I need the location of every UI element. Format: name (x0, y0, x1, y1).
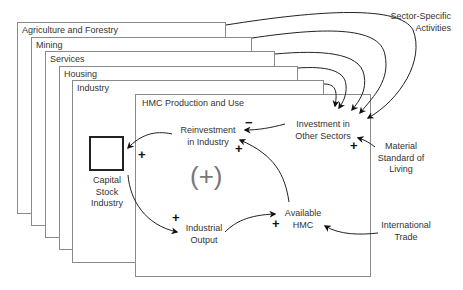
node-text: Capital (82, 175, 132, 187)
node-text: International (371, 220, 441, 232)
node-text: Standard of (372, 153, 430, 165)
capital-stock-box (89, 136, 124, 171)
node-material-standard-of-living: Material Standard of Living (372, 141, 430, 176)
node-investment-other-sectors: Investment in Other Sectors (286, 119, 360, 142)
node-reinvestment-in-industry: Reinvestment in Industry (172, 125, 244, 148)
node-text: Industrial (178, 223, 230, 235)
polarity-hmc-to-reinvest: + (235, 142, 243, 155)
reinforcing-loop-label: (+) (190, 161, 223, 192)
node-text: Living (372, 164, 430, 176)
node-text: Output (178, 235, 230, 247)
node-international-trade: International Trade (371, 220, 441, 243)
node-text: Reinvestment (172, 125, 244, 137)
node-text: Sector-Specific (365, 11, 451, 23)
polarity-output-to-hmc: + (272, 217, 280, 230)
node-text: HMC (277, 220, 329, 232)
node-text: Other Sectors (286, 131, 360, 143)
node-text: Industry (82, 198, 132, 210)
node-text: Investment in (286, 119, 360, 131)
node-sector-specific-activities: Sector-Specific Activities (365, 11, 451, 34)
polarity-capital-to-output: + (172, 211, 180, 224)
node-text: in Industry (172, 137, 244, 149)
polarity-material-to-invest: + (350, 139, 358, 152)
node-text: Available (277, 208, 329, 220)
node-capital-stock-industry: Capital Stock Industry (82, 175, 132, 210)
node-text: Stock (82, 187, 132, 199)
polarity-invest-to-reinvest: − (245, 116, 253, 129)
node-text: Trade (371, 232, 441, 244)
node-text: Material (372, 141, 430, 153)
node-text: Activities (365, 23, 451, 35)
node-available-hmc: Available HMC (277, 208, 329, 231)
polarity-reinvest-to-capital: + (138, 148, 146, 161)
node-industrial-output: Industrial Output (178, 223, 230, 246)
